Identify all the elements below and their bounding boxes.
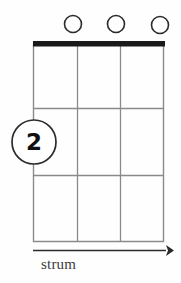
guitar-chord-diagram: 2 strum (0, 0, 181, 283)
strum-label: strum (41, 256, 76, 273)
strum-arrow-head (166, 245, 174, 256)
open-string-circle (65, 16, 82, 33)
open-string-circle (152, 17, 169, 34)
finger-marker-label: 2 (12, 120, 56, 164)
nut-bar (33, 41, 165, 47)
open-string-circle (108, 16, 125, 33)
open-string-markers (65, 16, 169, 34)
strum-arrow (33, 245, 174, 256)
